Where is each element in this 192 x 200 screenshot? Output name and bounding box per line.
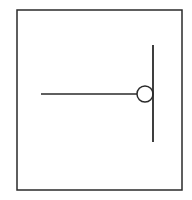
diagram-canvas [0,0,192,200]
junction-circle [137,86,153,102]
diagram-svg [0,0,192,200]
diagram-frame [17,10,182,190]
